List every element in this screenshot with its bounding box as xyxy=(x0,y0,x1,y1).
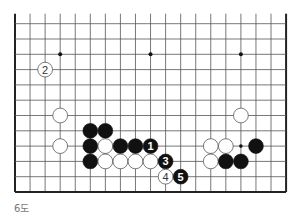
move-number-label: 3 xyxy=(163,155,169,167)
white-stone xyxy=(98,154,113,169)
star-point-icon xyxy=(239,52,243,56)
black-stone: 3 xyxy=(158,154,173,169)
move-number-label: 2 xyxy=(42,64,48,76)
black-stone xyxy=(249,139,264,154)
white-stone xyxy=(53,108,68,123)
white-stone xyxy=(98,139,113,154)
white-stone xyxy=(128,154,143,169)
move-number-label: 5 xyxy=(178,171,184,183)
white-stone: 4 xyxy=(158,169,173,184)
diagram-caption: 6도 xyxy=(14,203,28,214)
white-stone xyxy=(218,139,233,154)
black-stone xyxy=(83,123,98,138)
white-stone: 2 xyxy=(38,62,53,77)
white-stone xyxy=(143,154,158,169)
star-point-icon xyxy=(58,52,62,56)
move-number-label: 1 xyxy=(147,140,153,152)
white-stone xyxy=(234,108,249,123)
star-point-icon xyxy=(149,52,153,56)
black-stone xyxy=(113,139,128,154)
black-stone: 5 xyxy=(173,169,188,184)
black-stone xyxy=(128,139,143,154)
black-stone xyxy=(83,139,98,154)
black-stone xyxy=(98,123,113,138)
black-stone xyxy=(83,154,98,169)
white-stone xyxy=(113,154,128,169)
move-number-label: 4 xyxy=(163,171,169,183)
white-stone xyxy=(53,139,68,154)
white-stone xyxy=(203,154,218,169)
white-stone xyxy=(203,139,218,154)
point-mark-icon xyxy=(239,144,243,148)
black-stone xyxy=(218,154,233,169)
go-board-diagram: 13452 xyxy=(0,0,300,200)
black-stone xyxy=(234,154,249,169)
black-stone: 1 xyxy=(143,139,158,154)
